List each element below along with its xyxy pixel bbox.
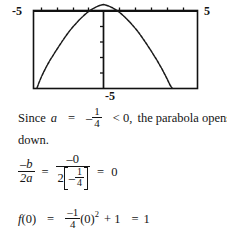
- inequality-zero: < 0,: [113, 111, 133, 125]
- vertex-rhs-denominator: 2–14: [56, 166, 91, 190]
- bracket-group: –14: [64, 167, 88, 190]
- reasoning-line-since: Sincea=–14< 0,the parabola opens: [18, 107, 227, 130]
- plus-one-term: + 1: [104, 212, 120, 226]
- squared-base: (0): [80, 212, 95, 226]
- vertex-formula-equation: –b 2a = –0 2–14 = 0: [18, 154, 117, 191]
- since-word: Since: [18, 111, 46, 125]
- equals-sign-3: =: [97, 165, 104, 180]
- x-min-label: -5: [12, 4, 22, 18]
- vertex-rhs-numerator: –0: [56, 153, 91, 166]
- worked-solution-panel: Sincea=–14< 0,the parabola opens down. –…: [0, 104, 227, 234]
- equals-sign-1: =: [68, 111, 75, 125]
- y-min-label: -5: [105, 89, 115, 103]
- variable-a: a: [51, 111, 57, 125]
- vertex-formula-rhs: –0 2–14: [56, 153, 91, 190]
- parabola-curve: [37, 5, 172, 89]
- coefficient-numerator: –1: [65, 207, 80, 218]
- inner-denominator: 4: [75, 177, 84, 188]
- inner-numerator: 1: [75, 167, 84, 177]
- reasoning-line-down: down.: [18, 134, 49, 147]
- inner-fraction: 14: [75, 167, 84, 188]
- graph-frame: [34, 11, 198, 89]
- down-word: down.: [18, 133, 49, 147]
- function-argument: (0): [21, 212, 36, 226]
- function-evaluation-line: f(0)=–14(0)2+ 1=1: [18, 208, 150, 231]
- parabola-graph: -5 5 -5: [0, 0, 227, 104]
- equals-sign-2: =: [42, 165, 49, 180]
- calculator-graph-panel: -5 5 -5: [0, 0, 227, 104]
- fraction-denominator: 4: [92, 117, 102, 129]
- fraction-one-fourth: 14: [92, 106, 102, 129]
- function-result: 1: [143, 212, 149, 226]
- x-max-label: 5: [204, 4, 210, 18]
- vertex-lhs-denominator: 2a: [18, 171, 35, 185]
- equals-sign-4: =: [47, 212, 54, 226]
- fraction-numerator: 1: [92, 106, 102, 117]
- coefficient-fraction: –14: [65, 207, 80, 230]
- vertex-result: 0: [111, 165, 117, 180]
- equals-sign-5: =: [131, 212, 138, 226]
- exponent-two: 2: [95, 209, 99, 219]
- opens-phrase: the parabola opens: [137, 111, 227, 125]
- vertex-formula-lhs: –b 2a: [18, 158, 35, 185]
- coefficient-denominator: 4: [65, 218, 80, 230]
- vertex-lhs-numerator: –b: [18, 158, 35, 171]
